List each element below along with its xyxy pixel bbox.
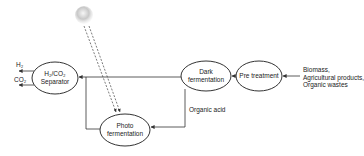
h2-label: H₂ [16, 61, 23, 69]
dark-fermentation-label-line1: Dark [181, 68, 231, 76]
organic-acid-label: Organic acid [189, 106, 226, 114]
co2-label: CO₂ [14, 76, 26, 84]
separator-label: H₂/CO₂ Separator [32, 70, 78, 86]
photo-fermentation-label-line2: fermentation [100, 130, 150, 138]
inputs-line1: Biomass, [303, 66, 364, 74]
photo-fermentation-label: Photo fermentation [100, 122, 150, 138]
dark-fermentation-label: Dark fermentation [181, 68, 231, 84]
inputs-line2: Agricultural products, [303, 74, 364, 82]
dark-fermentation-label-line2: fermentation [181, 76, 231, 84]
inputs-label: Biomass, Agricultural products, Organic … [303, 66, 364, 89]
sun-icon [75, 6, 93, 24]
light-ray-2 [89, 26, 120, 112]
pretreatment-label-line1: Pre treatment [236, 72, 282, 80]
light-ray-1 [84, 26, 116, 112]
separator-label-line1: H₂/CO₂ [32, 70, 78, 78]
separator-label-line2: Separator [32, 78, 78, 86]
edge-dark-photo [151, 89, 185, 127]
inputs-line3: Organic wastes [303, 81, 364, 89]
photo-fermentation-label-line1: Photo [100, 122, 150, 130]
edge-photo-separator [86, 77, 100, 129]
pretreatment-label: Pre treatment [236, 72, 282, 80]
